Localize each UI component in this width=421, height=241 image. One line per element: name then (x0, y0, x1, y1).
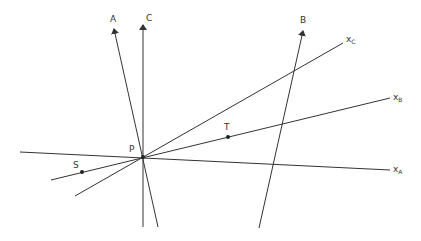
axis-A (114, 29, 158, 227)
point-T (226, 135, 230, 139)
point-P (141, 155, 145, 159)
point-S (80, 170, 84, 174)
geometry-diagram: xAxBxCACBPST (0, 0, 421, 241)
label-xB: xB (393, 92, 402, 103)
axes-layer (114, 25, 303, 228)
lines-layer (20, 43, 390, 196)
axis-B (259, 31, 303, 228)
label-axis-B: B (300, 15, 306, 25)
label-point-S: S (73, 160, 79, 170)
label-xA: xA (393, 164, 403, 175)
label-point-T: T (223, 122, 230, 132)
labels-layer: xAxBxCACBPST (73, 13, 403, 175)
label-xC: xC (346, 34, 356, 45)
label-axis-A: A (110, 14, 117, 24)
label-axis-C: C (146, 13, 152, 23)
label-point-P: P (129, 144, 135, 154)
